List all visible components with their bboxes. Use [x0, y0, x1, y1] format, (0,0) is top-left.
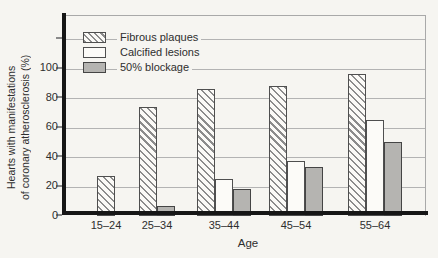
legend-swatch-fibrous-plaques — [83, 32, 106, 43]
y-axis-title-line1: Hearts with manifestations — [5, 30, 19, 225]
legend-label-50-blockage: 50% blockage — [117, 61, 192, 74]
gridline-80 — [64, 98, 425, 99]
legend: Fibrous plaquesCalcified lesions50% bloc… — [83, 30, 202, 75]
bar-calcified-lesions-45-54 — [287, 161, 305, 216]
bar-fibrous-plaques-35-44 — [197, 89, 215, 216]
legend-item-calcified-lesions: Calcified lesions — [83, 45, 202, 60]
bar-fibrous-plaques-45-54 — [269, 86, 287, 216]
bar-fibrous-plaques-25-34 — [139, 107, 157, 216]
y-tick-label-0: 0 — [24, 209, 58, 222]
legend-item-fibrous-plaques: Fibrous plaques — [83, 30, 202, 45]
legend-swatch-calcified-lesions — [83, 47, 106, 58]
atherosclerosis-bar-chart: Hearts with manifestations of coronary a… — [0, 0, 438, 258]
x-category-label-25-34: 25–34 — [127, 219, 187, 231]
legend-label-fibrous-plaques: Fibrous plaques — [117, 31, 201, 44]
y-tick-label-40: 40 — [24, 150, 58, 163]
x-axis-line — [62, 211, 428, 215]
legend-swatch-50-blockage — [83, 62, 106, 73]
y-tick-label-60: 60 — [24, 120, 58, 133]
y-axis-line — [62, 13, 66, 215]
x-category-label-55-64: 55–64 — [345, 219, 405, 231]
y-tick-label-80: 80 — [24, 91, 58, 104]
x-category-label-45-54: 45–54 — [266, 219, 326, 231]
y-tick-label-100: 100 — [24, 61, 58, 74]
bar-50-blockage-45-54 — [305, 167, 323, 216]
bar-fibrous-plaques-55-64 — [348, 74, 366, 216]
plot-area: Fibrous plaquesCalcified lesions50% bloc… — [64, 15, 426, 216]
bar-calcified-lesions-55-64 — [366, 120, 384, 216]
legend-label-calcified-lesions: Calcified lesions — [117, 46, 202, 59]
x-category-label-35-44: 35–44 — [194, 219, 254, 231]
y-tick-label-20: 20 — [24, 179, 58, 192]
bar-50-blockage-55-64 — [384, 142, 402, 216]
x-axis-title: Age — [218, 237, 278, 249]
legend-item-50-blockage: 50% blockage — [83, 60, 202, 75]
